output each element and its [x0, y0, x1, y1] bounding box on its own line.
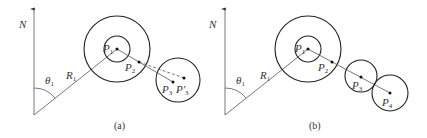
point-p3-b: [360, 76, 363, 79]
point-p1-a: [116, 48, 119, 51]
label-p2-a: P2: [124, 61, 136, 75]
label-p2-b: P2: [317, 61, 329, 75]
radius-label-b: R1: [259, 69, 271, 83]
point-p1-b: [307, 48, 310, 51]
panel-b: N θ1 R1 P1 P2 P3 P4 (b): [208, 9, 408, 132]
angle-label-a: θ1: [45, 74, 54, 88]
label-p1-b: P1: [294, 42, 306, 56]
radius-label-a: R1: [65, 69, 77, 83]
point-p4-b: [389, 92, 392, 95]
north-label-a: N: [18, 18, 27, 30]
panel-a: N θ1 R1 P1 P2 P3 P'3 (a): [18, 9, 200, 132]
label-p3-b: P3: [351, 79, 363, 93]
angle-arc-b: [225, 88, 246, 98]
point-p2-b: [331, 61, 334, 64]
circle-p3-a: [156, 58, 200, 102]
north-label-b: N: [208, 18, 217, 30]
angle-arc-a: [34, 88, 55, 98]
caption-b: (b): [309, 120, 321, 132]
angle-label-b: θ1: [236, 74, 245, 88]
label-p1-a: P1: [102, 42, 114, 56]
diagram-canvas: N θ1 R1 P1 P2 P3 P'3 (a) N θ1 R1: [0, 0, 427, 138]
label-p3-a: P3: [161, 83, 173, 97]
point-p2-a: [138, 61, 141, 64]
point-p3prime-a: [183, 77, 186, 80]
label-p3prime-a: P'3: [175, 83, 189, 97]
label-p4-b: P4: [381, 96, 393, 110]
point-p3-a: [172, 81, 175, 84]
caption-a: (a): [114, 120, 125, 132]
